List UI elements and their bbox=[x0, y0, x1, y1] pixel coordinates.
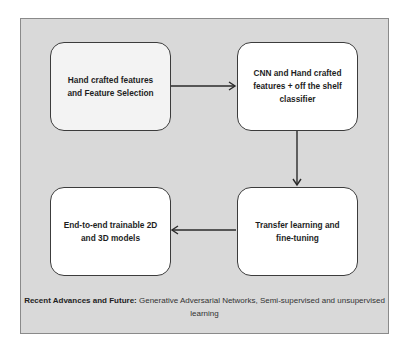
node-label: CNN and Hand crafted features + off the … bbox=[253, 67, 342, 106]
caption: Recent Advances and Future: Generative A… bbox=[20, 294, 389, 320]
caption-text: Generative Adversarial Networks, Semi-su… bbox=[137, 296, 385, 318]
node-end-to-end: End-to-end trainable 2D and 3D models bbox=[50, 187, 171, 276]
node-label: Hand crafted features and Feature Select… bbox=[67, 74, 153, 100]
node-transfer-learning: Transfer learning and fine-tuning bbox=[237, 187, 358, 276]
node-hand-crafted-features: Hand crafted features and Feature Select… bbox=[50, 42, 171, 131]
node-cnn-hand-crafted: CNN and Hand crafted features + off the … bbox=[237, 42, 358, 131]
node-label: End-to-end trainable 2D and 3D models bbox=[64, 219, 158, 245]
caption-heading: Recent Advances and Future: bbox=[24, 296, 137, 305]
node-label: Transfer learning and fine-tuning bbox=[255, 219, 339, 245]
